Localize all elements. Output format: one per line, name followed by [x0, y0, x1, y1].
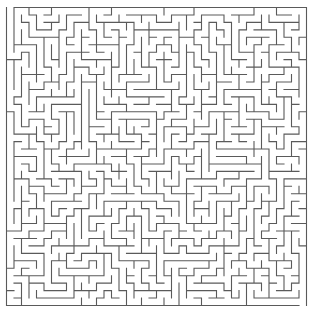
maze-walls	[7, 8, 307, 306]
maze-canvas: Maze	[0, 0, 312, 313]
maze-grid	[0, 0, 312, 313]
